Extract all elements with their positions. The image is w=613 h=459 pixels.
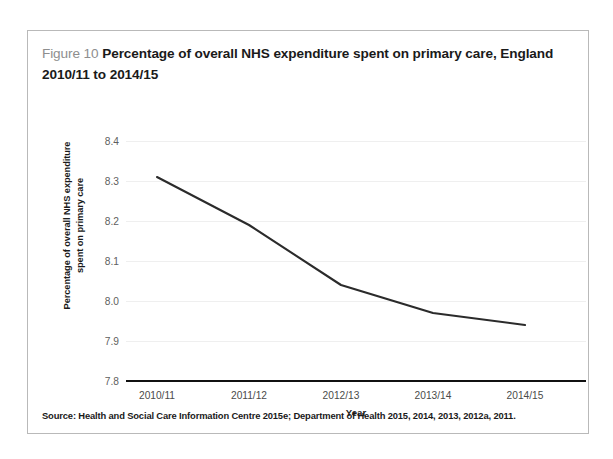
chart-plot-wrapper: Percentage of overall NHS expenditure sp… bbox=[28, 105, 588, 433]
figure-number-label: Figure 10 bbox=[42, 46, 99, 61]
figure-container: Figure 10 Percentage of overall NHS expe… bbox=[27, 30, 589, 434]
x-axis-tick-label: 2012/13 bbox=[323, 390, 360, 401]
plot-area: 8.4 8.3 8.2 8.1 8.0 7.9 7.8 bbox=[126, 141, 586, 381]
y-axis-tick-label: 7.8 bbox=[105, 376, 119, 387]
y-axis-tick-label: 8.1 bbox=[105, 256, 119, 267]
x-axis-tick-label: 2013/14 bbox=[415, 390, 452, 401]
x-axis-tick-label: 2010/11 bbox=[139, 390, 175, 401]
y-axis-tick-label: 8.4 bbox=[105, 136, 119, 147]
y-axis-tick-label: 8.3 bbox=[105, 176, 119, 187]
y-axis-tick-label: 7.9 bbox=[105, 336, 119, 347]
y-axis-title: Percentage of overall NHS expenditure sp… bbox=[61, 118, 86, 333]
source-note: Source: Health and Social Care Informati… bbox=[42, 410, 576, 421]
y-axis-tick-label: 8.2 bbox=[105, 216, 119, 227]
series-polyline bbox=[157, 177, 525, 325]
figure-title: Figure 10 Percentage of overall NHS expe… bbox=[42, 43, 570, 85]
y-axis-title-line2: spent on primary care bbox=[75, 178, 85, 273]
y-axis-tick-label: 8.0 bbox=[105, 296, 119, 307]
y-axis-title-line1: Percentage of overall NHS expenditure bbox=[62, 142, 72, 310]
x-axis-tick-label: 2014/15 bbox=[507, 390, 544, 401]
x-axis-tick-label: 2011/12 bbox=[231, 390, 267, 401]
line-series bbox=[126, 141, 586, 381]
figure-title-text: Percentage of overall NHS expenditure sp… bbox=[42, 46, 553, 82]
